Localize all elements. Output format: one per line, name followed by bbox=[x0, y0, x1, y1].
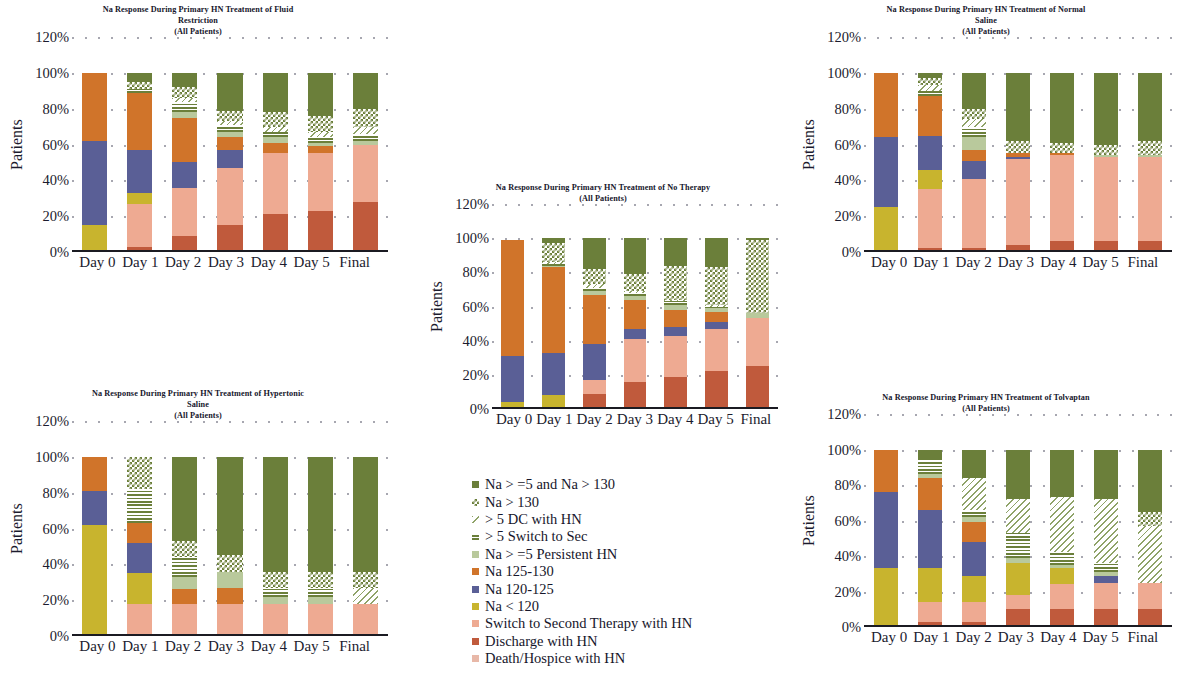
bar-segment[interactable] bbox=[353, 145, 378, 202]
stacked-bar[interactable] bbox=[353, 73, 378, 252]
bar-segment[interactable] bbox=[918, 189, 943, 248]
bar-segment[interactable] bbox=[308, 457, 333, 572]
stacked-bar[interactable] bbox=[542, 238, 565, 409]
stacked-bar[interactable] bbox=[962, 450, 987, 627]
bar-segment[interactable] bbox=[172, 162, 197, 187]
bar-segment[interactable] bbox=[263, 597, 288, 604]
bar-segment[interactable] bbox=[263, 153, 288, 214]
stacked-bar[interactable] bbox=[263, 457, 288, 636]
bar-segment[interactable] bbox=[583, 380, 606, 394]
bar-segment[interactable] bbox=[962, 137, 987, 150]
bar-segment[interactable] bbox=[962, 127, 987, 138]
bar-segment[interactable] bbox=[542, 353, 565, 396]
legend-item[interactable]: Discharge with HN bbox=[472, 633, 692, 650]
legend-item[interactable]: Na > =5 and Na > 130 bbox=[472, 476, 692, 493]
bar-segment[interactable] bbox=[308, 73, 333, 116]
bar-segment[interactable] bbox=[217, 457, 242, 556]
bar-segment[interactable] bbox=[308, 588, 333, 597]
bar-segment[interactable] bbox=[624, 382, 647, 409]
bar-segment[interactable] bbox=[962, 179, 987, 249]
bar-segment[interactable] bbox=[308, 604, 333, 636]
bar-segment[interactable] bbox=[217, 225, 242, 252]
bar-segment[interactable] bbox=[664, 310, 687, 327]
stacked-bar[interactable] bbox=[624, 238, 647, 409]
bar-segment[interactable] bbox=[127, 193, 152, 204]
bar-segment[interactable] bbox=[172, 541, 197, 557]
bar-segment[interactable] bbox=[263, 73, 288, 112]
legend-item[interactable]: Na < 120 bbox=[472, 598, 692, 615]
bar-segment[interactable] bbox=[82, 141, 107, 225]
bar-segment[interactable] bbox=[263, 588, 288, 597]
bar-segment[interactable] bbox=[705, 329, 728, 372]
legend-item[interactable]: > 5 Switch to Sec bbox=[472, 528, 692, 545]
bar-segment[interactable] bbox=[172, 102, 197, 113]
bar-segment[interactable] bbox=[542, 267, 565, 352]
bar-segment[interactable] bbox=[172, 73, 197, 87]
bar-segment[interactable] bbox=[705, 238, 728, 267]
bar-segment[interactable] bbox=[1006, 141, 1031, 154]
bar-segment[interactable] bbox=[1050, 450, 1075, 498]
bar-segment[interactable] bbox=[705, 267, 728, 305]
bar-segment[interactable] bbox=[1050, 552, 1075, 564]
bar-segment[interactable] bbox=[308, 572, 333, 588]
bar-segment[interactable] bbox=[263, 604, 288, 636]
bar-segment[interactable] bbox=[1050, 143, 1075, 154]
bar-segment[interactable] bbox=[1006, 73, 1031, 141]
bar-segment[interactable] bbox=[1138, 157, 1163, 241]
bar-segment[interactable] bbox=[217, 604, 242, 636]
bar-segment[interactable] bbox=[542, 243, 565, 262]
bar-segment[interactable] bbox=[263, 572, 288, 588]
bar-segment[interactable] bbox=[918, 460, 943, 474]
bar-segment[interactable] bbox=[874, 450, 899, 493]
bar-segment[interactable] bbox=[1138, 141, 1163, 155]
bar-segment[interactable] bbox=[353, 457, 378, 572]
stacked-bar[interactable] bbox=[962, 73, 987, 252]
bar-segment[interactable] bbox=[918, 510, 943, 569]
bar-segment[interactable] bbox=[263, 214, 288, 252]
bar-segment[interactable] bbox=[1050, 73, 1075, 143]
bar-segment[interactable] bbox=[962, 602, 987, 622]
bar-segment[interactable] bbox=[746, 318, 769, 366]
stacked-bar[interactable] bbox=[705, 238, 728, 409]
bar-segment[interactable] bbox=[308, 597, 333, 604]
bar-segment[interactable] bbox=[918, 170, 943, 190]
bar-segment[interactable] bbox=[82, 491, 107, 525]
stacked-bar[interactable] bbox=[353, 457, 378, 636]
bar-segment[interactable] bbox=[82, 525, 107, 636]
bar-segment[interactable] bbox=[172, 577, 197, 590]
bar-segment[interactable] bbox=[1006, 450, 1031, 500]
bar-segment[interactable] bbox=[918, 136, 943, 170]
bar-segment[interactable] bbox=[172, 457, 197, 541]
bar-segment[interactable] bbox=[874, 73, 899, 138]
bar-segment[interactable] bbox=[353, 588, 378, 604]
stacked-bar[interactable] bbox=[1006, 73, 1031, 252]
bar-segment[interactable] bbox=[1138, 512, 1163, 526]
bar-segment[interactable] bbox=[1138, 73, 1163, 141]
stacked-bar[interactable] bbox=[1094, 73, 1119, 252]
bar-segment[interactable] bbox=[962, 510, 987, 517]
bar-segment[interactable] bbox=[172, 557, 197, 577]
bar-segment[interactable] bbox=[217, 150, 242, 168]
bar-segment[interactable] bbox=[353, 572, 378, 588]
bar-segment[interactable] bbox=[1094, 450, 1119, 500]
bar-segment[interactable] bbox=[1050, 497, 1075, 552]
bar-segment[interactable] bbox=[1094, 73, 1119, 145]
bar-segment[interactable] bbox=[664, 377, 687, 409]
bar-segment[interactable] bbox=[217, 588, 242, 604]
bar-segment[interactable] bbox=[127, 604, 152, 636]
stacked-bar[interactable] bbox=[874, 450, 899, 628]
stacked-bar[interactable] bbox=[1094, 450, 1119, 627]
bar-segment[interactable] bbox=[1050, 584, 1075, 609]
stacked-bar[interactable] bbox=[82, 73, 107, 252]
bar-segment[interactable] bbox=[1006, 533, 1031, 558]
stacked-bar[interactable] bbox=[127, 457, 152, 636]
bar-segment[interactable] bbox=[1138, 526, 1163, 583]
bar-segment[interactable] bbox=[172, 188, 197, 236]
bar-segment[interactable] bbox=[1094, 145, 1119, 156]
legend-item[interactable]: > 5 DC with HN bbox=[472, 511, 692, 528]
stacked-bar[interactable] bbox=[918, 73, 943, 252]
bar-segment[interactable] bbox=[746, 366, 769, 409]
bar-segment[interactable] bbox=[501, 356, 524, 402]
bar-segment[interactable] bbox=[962, 161, 987, 179]
bar-segment[interactable] bbox=[217, 168, 242, 225]
